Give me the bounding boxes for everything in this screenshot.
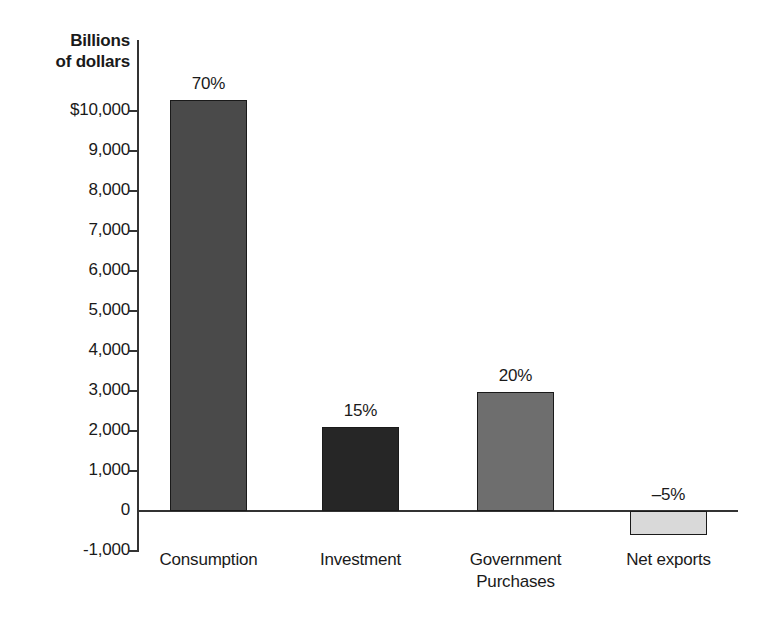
y-axis-tick-label: 9,000 [8, 140, 130, 160]
bar-value-label: –5% [609, 485, 729, 505]
bar[interactable] [322, 427, 399, 511]
bar-value-label: 70% [149, 74, 269, 94]
x-axis-category-label-line: Net exports [574, 549, 764, 571]
x-axis-category-label: Net exports [574, 549, 764, 571]
y-axis-tick-label: -1,000 [8, 540, 130, 560]
y-axis-tick-label: 6,000 [8, 260, 130, 280]
bar-value-label: 20% [456, 366, 576, 386]
y-axis-title-line-2: of dollars [0, 51, 130, 72]
y-axis-tick-label: 4,000 [8, 340, 130, 360]
y-axis-tick-label: 3,000 [8, 380, 130, 400]
y-axis-tick-label: 1,000 [8, 460, 130, 480]
y-axis-title: Billions of dollars [0, 30, 130, 72]
gdp-components-bar-chart: Billions of dollars $10,0009,0008,0007,0… [0, 0, 775, 621]
y-axis-title-line-1: Billions [0, 30, 130, 51]
y-axis-tick-label: $10,000 [8, 100, 130, 120]
bar-value-label: 15% [301, 401, 421, 421]
bar-group: 20% [477, 40, 554, 552]
bar[interactable] [630, 511, 707, 535]
y-axis-tick-label: 5,000 [8, 300, 130, 320]
bar-group: –5% [630, 40, 707, 552]
bar-group: 15% [322, 40, 399, 552]
bar[interactable] [477, 392, 554, 511]
plot-area: 70%15%20%–5% [137, 40, 738, 552]
y-axis-tick-label: 8,000 [8, 180, 130, 200]
y-axis-tick-label: 7,000 [8, 220, 130, 240]
y-axis-tick-label: 0 [8, 500, 130, 520]
bar[interactable] [170, 100, 247, 511]
x-axis-category-label-line: Purchases [421, 571, 611, 593]
bar-group: 70% [170, 40, 247, 552]
y-axis-tick-label: 2,000 [8, 420, 130, 440]
